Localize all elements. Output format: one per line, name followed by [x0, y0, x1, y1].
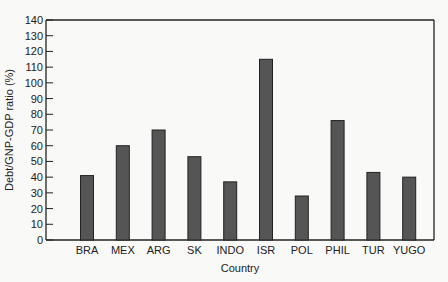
y-tick-label: 110: [25, 61, 43, 73]
y-tick-label: 50: [31, 155, 43, 167]
x-tick-label: MEX: [111, 244, 136, 256]
y-tick-label: 90: [31, 93, 43, 105]
y-tick-label: 40: [31, 171, 43, 183]
bars: [81, 59, 416, 240]
y-tick-label: 100: [25, 77, 43, 89]
bar-yugo: [403, 177, 416, 240]
x-tick-label: TUR: [362, 244, 385, 256]
bar-mex: [116, 146, 129, 240]
y-axis-ticks: 0102030405060708090100110120130140: [25, 14, 53, 246]
x-tick-label: BRA: [76, 244, 99, 256]
y-tick-label: 0: [37, 234, 43, 246]
x-axis-title: Country: [221, 262, 260, 274]
x-axis-labels: BRAMEXARGSKINDOISRPOLPHILTURYUGO: [76, 244, 426, 256]
bar-sk: [188, 157, 201, 240]
y-tick-label: 30: [31, 187, 43, 199]
y-tick-label: 130: [25, 30, 43, 42]
y-axis-title: Debt/GNP-GDP ratio (%): [3, 69, 15, 191]
x-tick-label: INDO: [216, 244, 244, 256]
y-tick-label: 20: [31, 203, 43, 215]
y-tick-label: 140: [25, 14, 43, 26]
bar-indo: [224, 182, 237, 240]
y-tick-label: 10: [31, 218, 43, 230]
y-tick-label: 70: [31, 124, 43, 136]
bar-pol: [295, 196, 308, 240]
bar-bra: [81, 176, 94, 240]
bar-arg: [152, 130, 165, 240]
x-tick-label: POL: [291, 244, 313, 256]
x-tick-label: YUGO: [393, 244, 426, 256]
y-tick-label: 60: [31, 140, 43, 152]
y-tick-label: 80: [31, 108, 43, 120]
bar-tur: [367, 172, 380, 240]
x-tick-label: SK: [187, 244, 202, 256]
bar-isr: [260, 59, 273, 240]
bar-chart: 0102030405060708090100110120130140 BRAME…: [0, 0, 448, 282]
x-tick-label: ISR: [257, 244, 275, 256]
bar-phil: [331, 121, 344, 240]
y-tick-label: 120: [25, 45, 43, 57]
x-tick-label: PHIL: [325, 244, 349, 256]
x-tick-label: ARG: [147, 244, 171, 256]
